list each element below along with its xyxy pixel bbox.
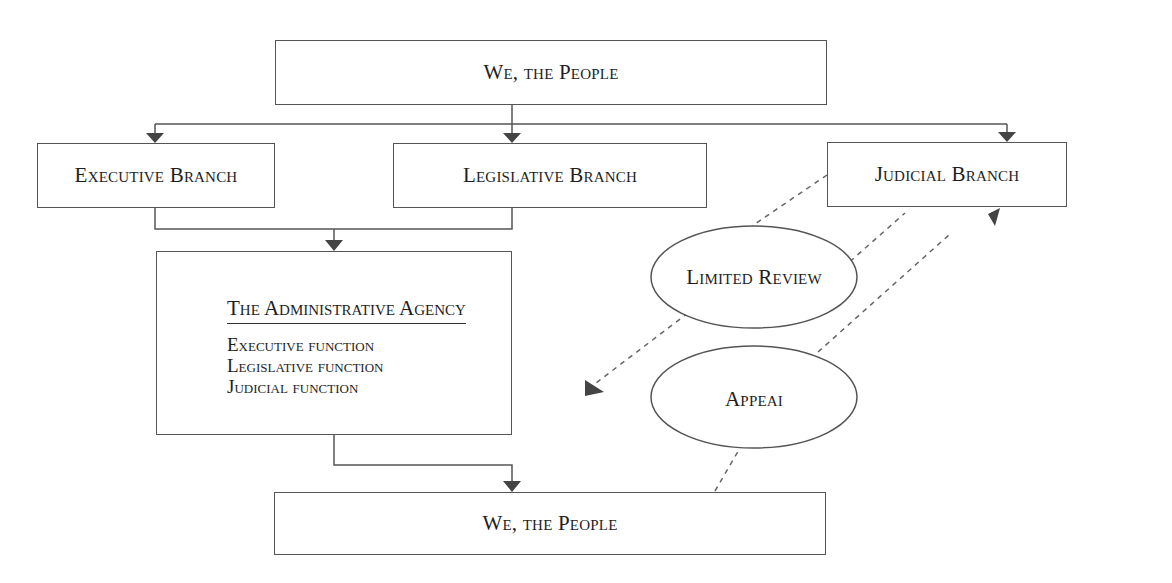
executive-branch-box: Executive Branch bbox=[37, 143, 275, 208]
legislative-branch-label: Legislative Branch bbox=[463, 163, 637, 188]
arrow-to-legislative bbox=[503, 124, 521, 143]
top-people-label: We, the People bbox=[483, 60, 618, 85]
executive-branch-label: Executive Branch bbox=[75, 163, 238, 188]
arrow-review-to-agency bbox=[585, 380, 604, 396]
limited-review-label: Limited Review bbox=[686, 265, 822, 290]
bottom-people-label: We, the People bbox=[482, 511, 617, 536]
arrow-appeal-to-judicial bbox=[988, 208, 1000, 226]
agency-function-executive: Executive function bbox=[227, 334, 466, 355]
top-people-box: We, the People bbox=[275, 40, 827, 105]
judicial-branch-label: Judicial Branch bbox=[875, 162, 1020, 187]
agency-function-legislative: Legislative function bbox=[227, 355, 466, 376]
agency-function-judicial: Judicial function bbox=[227, 376, 466, 397]
arrow-to-executive bbox=[146, 124, 164, 143]
legislative-branch-box: Legislative Branch bbox=[393, 143, 707, 208]
arrow-to-judicial bbox=[998, 124, 1016, 142]
judicial-branch-box: Judicial Branch bbox=[827, 142, 1067, 207]
bottom-people-box: We, the People bbox=[274, 492, 826, 555]
agency-title: The Administrative Agency bbox=[227, 296, 466, 324]
arrow-to-agency bbox=[325, 240, 343, 251]
administrative-agency-box: The Administrative Agency Executive func… bbox=[156, 251, 512, 435]
arrow-to-bottom bbox=[503, 481, 521, 492]
appeal-label: Appeai bbox=[725, 387, 783, 412]
